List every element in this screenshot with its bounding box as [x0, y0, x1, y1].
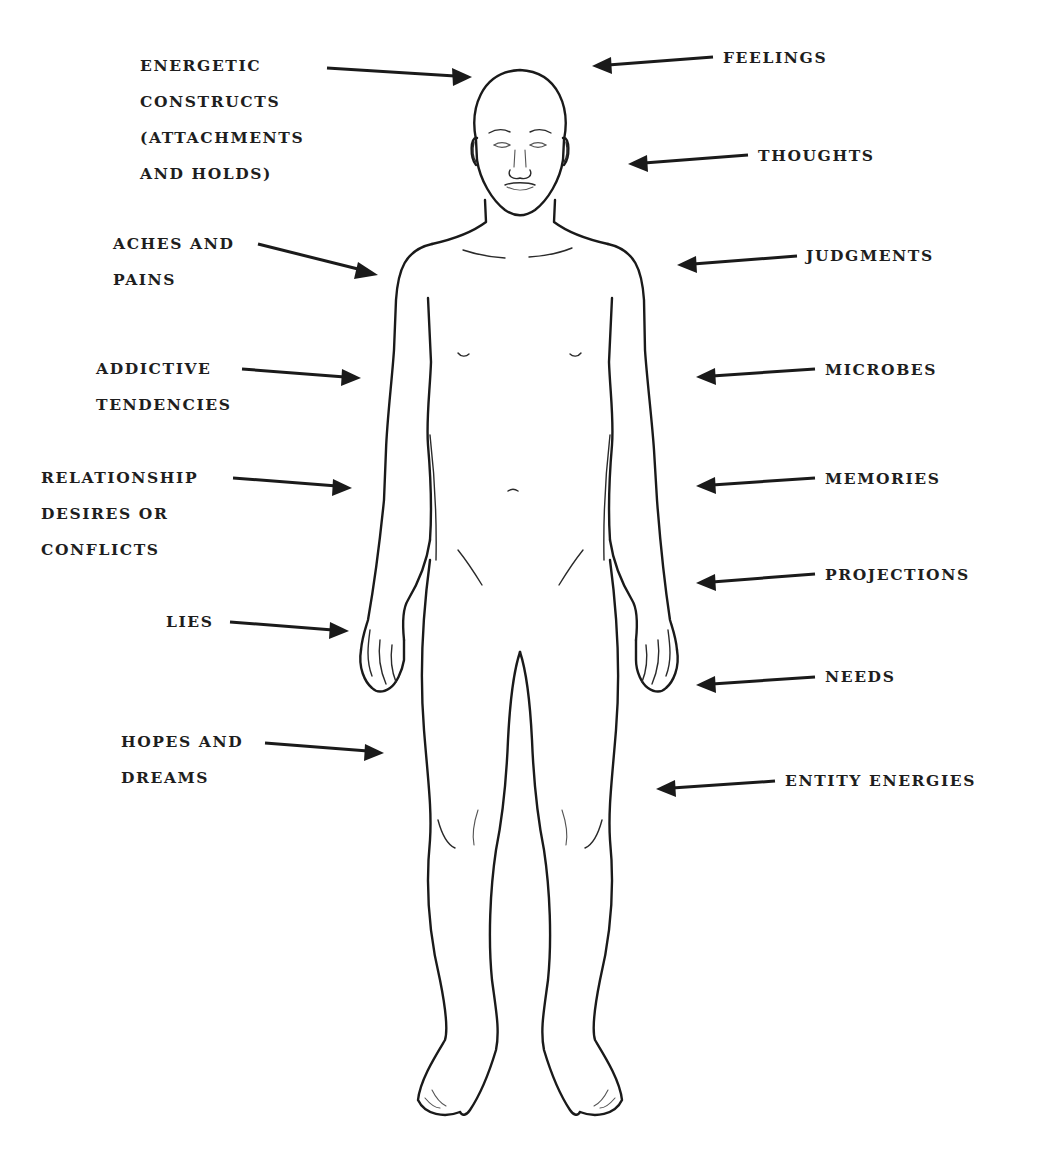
arrow-relationship-desires	[233, 478, 352, 496]
arrow-entity-energies	[656, 780, 775, 797]
body-diagram: ENERGETIC CONSTRUCTS (ATTACHMENTS AND HO…	[0, 0, 1039, 1166]
arrow-addictive-tendencies	[242, 369, 361, 386]
label-addictive-tendencies: ADDICTIVE TENDENCIES	[96, 351, 232, 423]
hands-outline	[360, 630, 677, 692]
label-judgments: JUDGMENTS	[806, 238, 934, 274]
label-needs: NEEDS	[825, 659, 895, 695]
arrow-hopes-and-dreams	[265, 743, 384, 761]
label-lies: LIES	[166, 604, 214, 640]
arrow-lies	[230, 622, 349, 639]
arrow-aches-and-pains	[258, 244, 378, 279]
arrow-needs	[696, 676, 815, 693]
arrow-microbes	[696, 368, 815, 385]
label-feelings: FEELINGS	[723, 40, 827, 76]
label-projections: PROJECTIONS	[825, 557, 970, 593]
legs-outline	[418, 560, 622, 1115]
label-microbes: MICROBES	[825, 352, 937, 388]
label-aches-and-pains: ACHES AND PAINS	[113, 226, 234, 298]
label-memories: MEMORIES	[825, 461, 941, 497]
arrow-energetic-constructs	[327, 68, 472, 86]
label-entity-energies: ENTITY ENERGIES	[785, 763, 976, 799]
arrow-memories	[696, 477, 815, 494]
label-thoughts: THOUGHTS	[758, 138, 875, 174]
label-relationship-desires-or-conflicts: RELATIONSHIP DESIRES OR CONFLICTS	[41, 460, 198, 568]
arrow-projections	[696, 574, 815, 591]
head-outline	[472, 70, 569, 215]
label-energetic-constructs: ENERGETIC CONSTRUCTS (ATTACHMENTS AND HO…	[140, 48, 304, 192]
arrow-thoughts	[628, 155, 748, 172]
torso-outline	[361, 200, 677, 650]
label-hopes-and-dreams: HOPES AND DREAMS	[121, 724, 243, 796]
arrow-feelings	[592, 57, 713, 74]
arrow-judgments	[677, 256, 797, 273]
